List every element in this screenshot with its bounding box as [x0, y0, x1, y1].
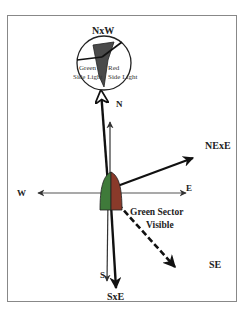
label-green-side-light-2: Side Light [73, 73, 102, 81]
heading-nexe-arrow [112, 158, 193, 188]
label-n: N [116, 99, 123, 109]
label-red-side-light-1: Red [108, 64, 120, 72]
label-sxe: SxE [107, 291, 125, 302]
boat-green-half [100, 172, 111, 210]
sidelight-diagram: NxW N NExE W E SE S SxE Green Sector Vis… [0, 0, 242, 310]
boat-red-half [111, 172, 122, 210]
label-se: SE [209, 259, 222, 270]
inset-circle [77, 36, 131, 90]
label-s: S [100, 270, 105, 280]
label-green-sector-2: Visible [146, 220, 174, 230]
label-w: W [17, 188, 26, 198]
label-nxw: NxW [92, 25, 114, 36]
label-green-sector-1: Green Sector [130, 207, 184, 217]
heading-sxe-arrow [111, 205, 116, 288]
label-nexe: NExE [205, 140, 231, 151]
label-e: E [186, 183, 192, 193]
label-green-side-light-1: Green [79, 64, 97, 72]
boat-icon [100, 172, 122, 210]
label-red-side-light-2: Side Light [108, 73, 137, 81]
axis-south-arrow [107, 200, 108, 281]
heading-nxw-arrow [101, 91, 108, 185]
